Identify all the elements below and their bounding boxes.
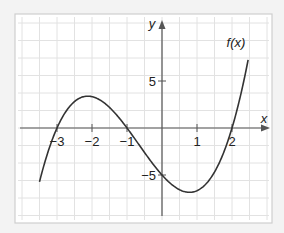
- x-tick-label: 2: [228, 134, 235, 149]
- y-tick-label: 5: [149, 74, 156, 89]
- function-graph: −3−2−1125−5xyf(x): [0, 0, 284, 233]
- x-tick-label: 1: [193, 134, 200, 149]
- curve-label: f(x): [227, 35, 246, 50]
- y-tick-label: −5: [141, 168, 156, 183]
- x-tick-label: −2: [85, 134, 100, 149]
- x-axis-label: x: [260, 111, 268, 126]
- x-tick-label: −1: [120, 134, 135, 149]
- x-tick-label: −3: [50, 134, 65, 149]
